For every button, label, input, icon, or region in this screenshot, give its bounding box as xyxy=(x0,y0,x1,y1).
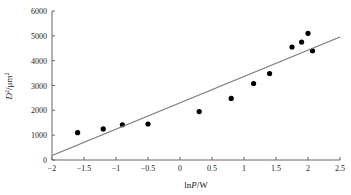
x-tick-label: 0.5 xyxy=(207,164,217,173)
x-tick-label: −1 xyxy=(112,164,121,173)
y-tick-label: 3000 xyxy=(31,82,47,91)
x-tick-label: 1.5 xyxy=(271,164,281,173)
y-tick-label: 4000 xyxy=(31,57,47,66)
data-point xyxy=(101,126,106,131)
x-tick-label: 0 xyxy=(178,164,182,173)
x-tick-label: −1.5 xyxy=(77,164,92,173)
scatter-plot: 0100020003000400050006000−2−1.5−1−0.500.… xyxy=(0,0,351,195)
x-tick-label: 1 xyxy=(242,164,246,173)
data-point xyxy=(145,121,150,126)
data-point xyxy=(75,130,80,135)
x-axis-label: lnP/W xyxy=(184,180,208,190)
y-tick-label: 0 xyxy=(43,156,47,165)
data-point xyxy=(289,44,294,49)
y-tick-label: 5000 xyxy=(31,32,47,41)
x-tick-label: 2.5 xyxy=(335,164,345,173)
data-point xyxy=(267,71,272,76)
y-axis-label: D2/μm2 xyxy=(4,73,14,101)
fit-line xyxy=(52,37,340,155)
data-point xyxy=(251,81,256,86)
x-tick-label: 2 xyxy=(306,164,310,173)
axes: 0100020003000400050006000−2−1.5−1−0.500.… xyxy=(31,7,345,173)
y-tick-label: 1000 xyxy=(31,131,47,140)
data-point xyxy=(305,31,310,36)
x-tick-label: −2 xyxy=(48,164,57,173)
chart: 0100020003000400050006000−2−1.5−1−0.500.… xyxy=(0,0,351,195)
y-tick-label: 2000 xyxy=(31,106,47,115)
x-tick-label: −0.5 xyxy=(141,164,156,173)
data-point xyxy=(229,96,234,101)
data-point xyxy=(299,39,304,44)
plot-area xyxy=(52,31,340,156)
y-tick-label: 6000 xyxy=(31,7,47,16)
data-point xyxy=(197,109,202,114)
